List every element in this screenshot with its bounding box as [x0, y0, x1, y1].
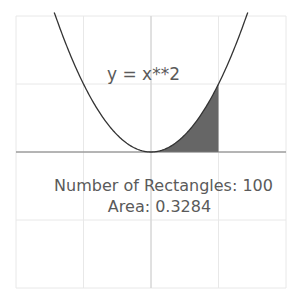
area-value-label: Area: 0.3284	[0, 197, 299, 216]
function-label: y = x**2	[107, 64, 180, 84]
rectangles-count-label: Number of Rectangles: 100	[0, 176, 299, 195]
plot-canvas	[0, 0, 299, 302]
shaded-area	[151, 84, 219, 152]
